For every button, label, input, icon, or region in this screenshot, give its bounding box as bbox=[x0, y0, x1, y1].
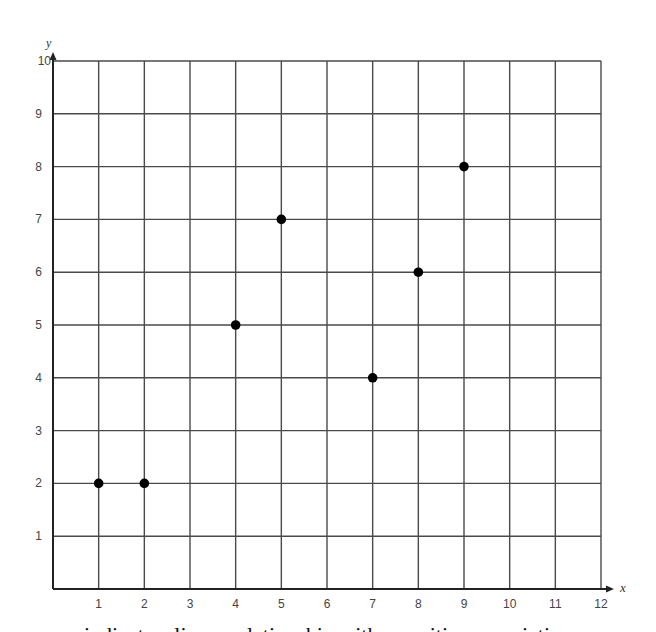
data-point bbox=[459, 162, 469, 172]
x-tick-label: 11 bbox=[549, 597, 562, 611]
axes bbox=[50, 52, 615, 593]
y-tick-label: 8 bbox=[35, 160, 42, 174]
x-axis-arrow-icon bbox=[606, 586, 614, 593]
y-axis-label: y bbox=[45, 36, 52, 50]
y-tick-label: 2 bbox=[35, 476, 42, 490]
x-tick-label: 1 bbox=[95, 597, 102, 611]
data-point bbox=[231, 320, 241, 330]
data-point bbox=[140, 479, 150, 489]
data-point bbox=[414, 267, 424, 277]
y-tick-label: 6 bbox=[35, 265, 42, 279]
x-tick-label: 6 bbox=[324, 597, 331, 611]
y-tick-label: 5 bbox=[35, 318, 42, 332]
caption-text: indicate a linear relationship with a po… bbox=[0, 620, 656, 632]
grid-lines bbox=[53, 61, 601, 589]
x-tick-label: 12 bbox=[594, 597, 608, 611]
y-tick-label: 4 bbox=[35, 371, 42, 385]
data-point bbox=[277, 215, 287, 225]
data-point bbox=[94, 479, 104, 489]
y-tick-labels: 12345678910 bbox=[35, 54, 51, 543]
x-tick-label: 5 bbox=[278, 597, 285, 611]
y-tick-label: 3 bbox=[35, 424, 42, 438]
x-tick-label: 3 bbox=[187, 597, 194, 611]
x-tick-label: 4 bbox=[232, 597, 239, 611]
x-tick-labels: 123456789101112 bbox=[95, 597, 608, 611]
y-tick-label: 7 bbox=[35, 212, 42, 226]
x-tick-label: 2 bbox=[141, 597, 148, 611]
x-tick-label: 10 bbox=[503, 597, 517, 611]
x-tick-label: 9 bbox=[461, 597, 468, 611]
y-tick-label: 10 bbox=[38, 54, 52, 68]
y-tick-label: 1 bbox=[35, 529, 42, 543]
data-point bbox=[368, 373, 378, 383]
y-tick-label: 9 bbox=[35, 107, 42, 121]
x-tick-label: 7 bbox=[369, 597, 376, 611]
x-tick-label: 8 bbox=[415, 597, 422, 611]
x-axis-label: x bbox=[619, 580, 626, 595]
scatter-plot: 123456789101112 12345678910 x y bbox=[0, 0, 656, 632]
